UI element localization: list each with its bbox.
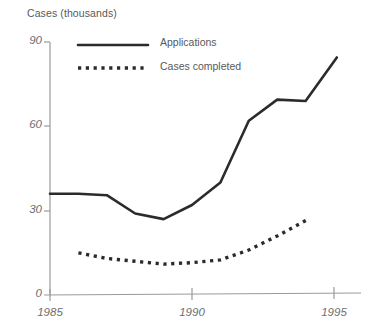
- series-line-cases-completed: [78, 219, 308, 264]
- line-chart: Cases (thousands) 90 60 30 0 1985 1990 1…: [0, 0, 366, 335]
- plot-area: [0, 0, 366, 335]
- series-line-applications: [50, 57, 337, 219]
- x-axis-line: [44, 293, 361, 295]
